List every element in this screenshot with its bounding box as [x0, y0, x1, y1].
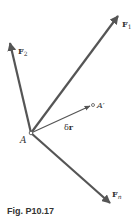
figure-caption: Fig. P10.17	[7, 206, 54, 216]
vector-fn	[31, 133, 110, 203]
label-a: A	[19, 135, 27, 145]
vector-f2	[10, 43, 31, 133]
point-a-prime-marker	[92, 104, 95, 107]
point-a-marker	[29, 131, 33, 135]
label-a-prime: A′	[96, 101, 105, 110]
force-diagram: A A′ δr F1 F2 Fn	[0, 0, 140, 224]
label-f1: F1	[122, 19, 132, 30]
label-delta-r: δr	[64, 122, 74, 132]
label-f2: F2	[18, 46, 28, 57]
label-fn: Fn	[112, 189, 122, 200]
vector-f1	[31, 16, 118, 133]
